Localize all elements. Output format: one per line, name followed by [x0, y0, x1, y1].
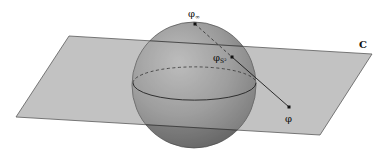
- north-pole-point: [194, 23, 197, 26]
- sphere-point: [231, 56, 234, 59]
- plane-point: [288, 106, 291, 109]
- plane-point-label: φ: [285, 113, 292, 124]
- north-pole-label: φ∞: [188, 8, 200, 20]
- stereographic-projection-diagram: φ∞ φS² φ C: [0, 0, 387, 157]
- plane-label: C: [359, 39, 367, 50]
